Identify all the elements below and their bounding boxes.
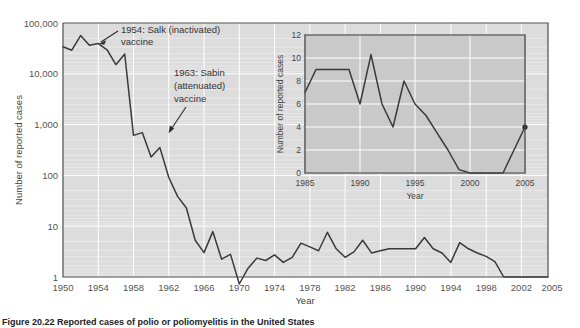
inset-y-tick-8: 8 — [296, 76, 301, 86]
y-tick-1000: 1,000 — [34, 119, 58, 130]
polio-cases-figure: 100,000 10,000 1,000 100 10 1 1950 1954 … — [0, 0, 580, 328]
annotation-sabin-line3: vaccine — [174, 93, 206, 104]
x-tick-1950: 1950 — [52, 282, 73, 293]
inset-y-tick-4: 4 — [296, 122, 301, 132]
main-y-axis-title: Number of reported cases — [13, 95, 24, 205]
x-tick-1974: 1974 — [264, 282, 285, 293]
main-x-axis-title: Year — [295, 295, 314, 306]
inset-y-tick-0: 0 — [296, 168, 301, 178]
inset-y-tick-12: 12 — [292, 30, 302, 40]
inset-y-axis-title: Number of reported cases — [275, 55, 285, 153]
x-tick-2005: 2005 — [541, 282, 562, 293]
inset-x-tick-1995: 1995 — [406, 178, 425, 188]
y-tick-100000: 100,000 — [24, 18, 58, 29]
x-tick-1962: 1962 — [158, 282, 179, 293]
annotation-salk-line1: 1954: Salk (inactivated) — [121, 24, 220, 35]
inset-x-tick-1990: 1990 — [351, 178, 370, 188]
inset-y-tick-2: 2 — [296, 145, 301, 155]
inset-x-tick-2000: 2000 — [461, 178, 480, 188]
inset-x-tick-2005: 2005 — [516, 178, 535, 188]
figure-caption: Figure 20.22 Reported cases of polio or … — [2, 317, 315, 327]
main-x-tick-labels: 1950 1954 1958 1962 1966 1970 1974 1978 … — [52, 282, 562, 293]
x-tick-1958: 1958 — [123, 282, 144, 293]
main-y-tick-labels: 100,000 10,000 1,000 100 10 1 — [24, 18, 58, 283]
x-tick-1978: 1978 — [299, 282, 320, 293]
x-tick-1986: 1986 — [370, 282, 391, 293]
annotation-sabin-line1: 1963: Sabin — [174, 67, 225, 78]
chart-canvas: 100,000 10,000 1,000 100 10 1 1950 1954 … — [0, 0, 580, 328]
x-tick-1994: 1994 — [440, 282, 461, 293]
annotation-sabin-line2: (attenuated) — [174, 80, 225, 91]
y-tick-10000: 10,000 — [29, 68, 58, 79]
y-tick-10: 10 — [47, 221, 58, 232]
inset-x-tick-1985: 1985 — [296, 178, 315, 188]
y-tick-1: 1 — [53, 272, 58, 283]
inset-y-tick-6: 6 — [296, 99, 301, 109]
x-tick-1966: 1966 — [194, 282, 215, 293]
x-tick-1954: 1954 — [88, 282, 109, 293]
annotation-salk-line2: vaccine — [121, 36, 153, 47]
x-tick-2002: 2002 — [511, 282, 532, 293]
inset-x-axis-title: Year — [406, 191, 423, 201]
x-tick-1990: 1990 — [405, 282, 426, 293]
x-tick-1970: 1970 — [229, 282, 250, 293]
inset-y-tick-10: 10 — [292, 53, 302, 63]
y-tick-100: 100 — [42, 170, 58, 181]
x-tick-1998: 1998 — [476, 282, 497, 293]
x-tick-1982: 1982 — [335, 282, 356, 293]
